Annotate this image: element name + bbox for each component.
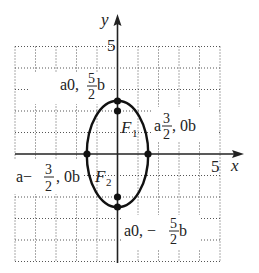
svg-text:, 0b: , 0b xyxy=(56,168,80,185)
top-vertex-point xyxy=(114,97,121,104)
svg-text:5: 5 xyxy=(88,71,95,86)
svg-text:2: 2 xyxy=(170,232,177,247)
svg-text:2: 2 xyxy=(45,179,52,194)
svg-text:a: a xyxy=(154,117,161,134)
focus-2-point xyxy=(114,193,121,200)
focus-2-label: F 2 xyxy=(94,167,112,188)
y-axis-tick-5: 5 xyxy=(107,36,116,55)
svg-text:a0, −: a0, − xyxy=(124,222,156,239)
left-covertex-point xyxy=(83,150,90,157)
x-axis-label: x xyxy=(230,156,239,175)
svg-text:1: 1 xyxy=(132,127,138,139)
svg-text:b: b xyxy=(97,76,105,93)
ellipse-diagram: y 5 x 5 a0, 5 2 b F 1 a 3 2 , 0b a− 3 2 … xyxy=(0,0,259,273)
svg-text:, 0b: , 0b xyxy=(172,117,196,134)
x-axis-tick-5: 5 xyxy=(211,157,220,176)
svg-text:3: 3 xyxy=(163,111,170,126)
svg-text:b: b xyxy=(179,222,187,239)
svg-text:F: F xyxy=(120,118,132,137)
y-axis-label: y xyxy=(99,10,109,29)
svg-text:a−: a− xyxy=(16,168,32,185)
svg-text:3: 3 xyxy=(45,162,52,177)
svg-text:2: 2 xyxy=(163,127,170,142)
x-axis xyxy=(15,150,244,158)
svg-text:2: 2 xyxy=(106,176,112,188)
svg-text:F: F xyxy=(94,167,106,186)
bottom-vertex-point xyxy=(114,203,121,210)
svg-text:2: 2 xyxy=(88,87,95,102)
svg-text:a0,: a0, xyxy=(60,76,79,93)
right-covertex-point xyxy=(144,150,151,157)
focus-1-label: F 1 xyxy=(120,118,138,139)
focus-1-point xyxy=(114,107,121,114)
svg-text:5: 5 xyxy=(170,216,177,231)
